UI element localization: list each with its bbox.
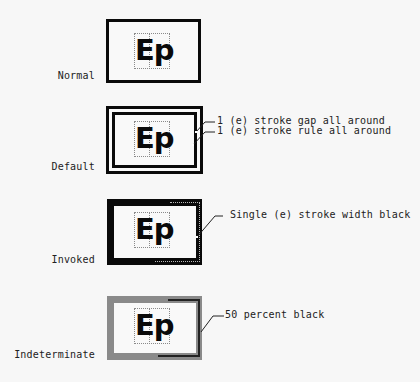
leader-lines — [0, 0, 420, 382]
